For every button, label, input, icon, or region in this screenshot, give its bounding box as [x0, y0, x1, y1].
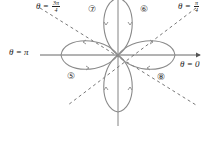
- arrow-icon: [128, 22, 132, 25]
- label-theta-pi-over-4: θ = π 4: [178, 0, 199, 13]
- label-theta-zero: θ = 0: [180, 60, 200, 69]
- fraction-pi-over-4: π 4: [194, 0, 199, 13]
- arrow-icon: [104, 87, 108, 90]
- label-theta-3pi-over-4: θ = 3π 4: [36, 0, 60, 13]
- fraction-denominator: 4: [195, 7, 198, 13]
- label-prefix: θ =: [36, 1, 49, 11]
- fraction-numerator: 3π: [52, 0, 60, 7]
- fraction-numerator: π: [194, 0, 199, 7]
- fraction-3pi-over-4: 3π 4: [52, 0, 60, 13]
- arrow-icon: [104, 22, 108, 25]
- region-7-label: ⑦: [88, 5, 96, 14]
- label-prefix: θ =: [178, 1, 191, 11]
- polar-rose-diagram: θ = 3π 4 θ = π 4 θ = π θ = 0 ⑦ ⑥ ⑤ ⑧: [0, 0, 206, 145]
- fraction-denominator: 4: [55, 7, 58, 13]
- region-5-label: ⑤: [67, 72, 75, 81]
- arrow-icon: [128, 87, 132, 90]
- region-6-label: ⑥: [140, 5, 148, 14]
- label-theta-pi: θ = π: [9, 48, 29, 57]
- region-8-label: ⑧: [157, 73, 165, 82]
- diagram-canvas: [0, 0, 206, 145]
